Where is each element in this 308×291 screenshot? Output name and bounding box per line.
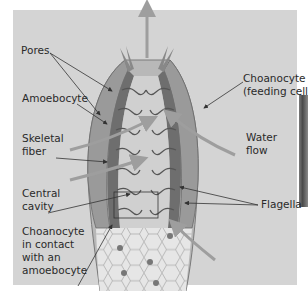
label-choanocyte-contact: Choanocyte in contact with an amoebocyte [22,225,87,277]
sponge-body [88,46,198,291]
label-skeletal-fiber: Skeletal fiber [22,132,64,158]
label-flagella: Flagella [261,198,302,211]
label-choanocyte-feeding: Choanocyte (feeding cell) [243,72,308,98]
label-central-cavity: Central cavity [22,187,60,213]
label-water-flow: Water flow [246,131,277,157]
label-amoebocyte: Amoebocyte [22,92,88,105]
label-pores: Pores [21,44,49,57]
